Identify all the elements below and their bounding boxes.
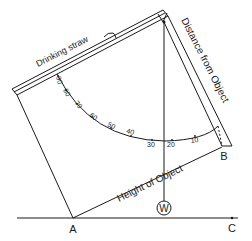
tick-30: 30 (147, 141, 155, 148)
arc-dashed-end (218, 126, 222, 146)
protractor-arc (57, 74, 218, 141)
clinometer-diagram: W A B C Drinking straw Distance from Obj… (0, 0, 252, 241)
tick-50: 50 (107, 121, 117, 131)
point-b-label: B (220, 150, 227, 162)
tick-60: 60 (88, 111, 99, 121)
tick-20: 20 (167, 141, 175, 148)
weight-label: W (159, 203, 169, 214)
tick-40: 40 (126, 127, 135, 136)
board-left-edge (17, 95, 73, 218)
point-c-label: C (228, 222, 236, 234)
point-a-label: A (69, 223, 77, 235)
drinking-straw (12, 10, 168, 95)
height-label: Height of Object (115, 162, 184, 203)
straw-label: Drinking straw (34, 34, 90, 69)
tick-10: 10 (190, 136, 199, 144)
protractor-ticks: 90 80 70 60 50 40 30 20 10 (55, 75, 199, 148)
